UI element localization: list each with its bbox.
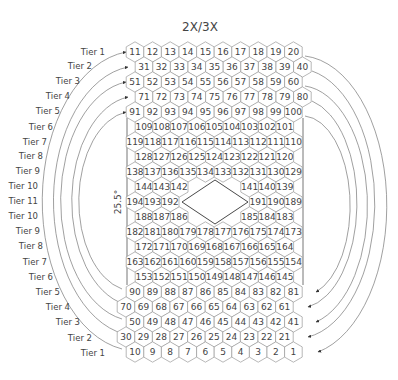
tier-label: Tier 10: [7, 211, 38, 221]
angle-label: 25.5°: [113, 190, 123, 215]
seat-number: 120: [276, 152, 293, 162]
seat-number: 117: [162, 137, 179, 147]
seat-number: 189: [285, 197, 302, 207]
seat-map-diagram: 2X/3X 1112131415161718192031323334353637…: [0, 0, 398, 380]
seat-number: 68: [155, 302, 167, 312]
seat-number: 143: [153, 182, 170, 192]
seat-number: 103: [241, 122, 258, 132]
seat-number: 131: [250, 167, 267, 177]
seat-number: 133: [214, 167, 231, 177]
tier-label: Tier 1: [80, 47, 105, 57]
seat-number: 92: [147, 107, 158, 117]
seat-number: 39: [279, 62, 291, 72]
seat-number: 179: [179, 227, 196, 237]
seat-number: 7: [185, 347, 191, 357]
seat-number: 162: [144, 257, 161, 267]
seat-number: 18: [252, 47, 264, 57]
seat-number: 70: [120, 302, 132, 312]
seat-number: 93: [164, 107, 175, 117]
seat-number: 17: [235, 47, 246, 57]
seat-number: 177: [214, 227, 231, 237]
seat-number: 76: [226, 92, 238, 102]
seat-number: 31: [138, 62, 149, 72]
seat-number: 194: [126, 197, 143, 207]
seat-number: 161: [162, 257, 179, 267]
seat-number: 23: [243, 332, 254, 342]
seat-number: 86: [200, 287, 212, 297]
tier-label: Tier 6: [28, 272, 53, 282]
seat-number: 65: [208, 302, 219, 312]
seat-number: 29: [138, 332, 150, 342]
seat-number: 36: [226, 62, 238, 72]
seat-number: 127: [153, 152, 170, 162]
seat-number: 135: [179, 167, 196, 177]
tier-label: Tier 11: [7, 196, 38, 206]
tier-label: Tier 2: [67, 333, 92, 343]
seat-number: 148: [223, 272, 240, 282]
seat-number: 114: [214, 137, 231, 147]
seat-number: 98: [252, 107, 264, 117]
seat-number: 24: [226, 332, 238, 342]
seat-number: 147: [241, 272, 258, 282]
seat-number: 8: [167, 347, 173, 357]
seat-number: 149: [206, 272, 223, 282]
seat-number: 79: [279, 92, 291, 102]
seat-number: 15: [200, 47, 211, 57]
seat-number: 112: [250, 137, 267, 147]
seat-number: 139: [276, 182, 293, 192]
seat-number: 37: [244, 62, 255, 72]
seat-number: 72: [156, 92, 167, 102]
seat-number: 9: [150, 347, 156, 357]
tier-arrow-right: [305, 116, 350, 292]
seat-number: 46: [200, 317, 212, 327]
seat-number: 1: [291, 347, 297, 357]
seat-number: 43: [252, 317, 263, 327]
seat-number: 78: [261, 92, 273, 102]
seat-number: 85: [217, 287, 228, 297]
seat-number: 53: [164, 77, 175, 87]
seat-number: 141: [241, 182, 258, 192]
seat-number: 158: [214, 257, 231, 267]
seat-number: 150: [188, 272, 205, 282]
seat-number: 57: [235, 77, 246, 87]
seat-number: 22: [261, 332, 272, 342]
seat-number: 173: [285, 227, 302, 237]
seat-number: 77: [244, 92, 255, 102]
seat-number: 33: [173, 62, 184, 72]
seat-number: 152: [153, 272, 170, 282]
seat-number: 41: [288, 317, 299, 327]
tier-label: Tier 8: [18, 151, 43, 161]
seat-number: 19: [270, 47, 282, 57]
seat-number: 97: [235, 107, 246, 117]
seat-number: 187: [153, 212, 170, 222]
seat-number: 60: [288, 77, 300, 87]
seat-number: 16: [217, 47, 229, 57]
seat-number: 64: [226, 302, 238, 312]
seat-number: 49: [147, 317, 159, 327]
seat-number: 137: [144, 167, 161, 177]
seat-number: 80: [297, 92, 309, 102]
seat-number: 115: [197, 137, 214, 147]
seat-number: 184: [259, 212, 276, 222]
seat-number: 54: [182, 77, 194, 87]
seat-number: 74: [191, 92, 203, 102]
seat-number: 111: [267, 137, 284, 147]
tier-label: Tier 3: [55, 76, 80, 86]
seat-number: 180: [162, 227, 179, 237]
seat-number: 91: [129, 107, 140, 117]
seat-number: 44: [235, 317, 247, 327]
seat-number: 26: [191, 332, 203, 342]
tier-label: Tier 9: [15, 166, 40, 176]
seat-number: 136: [162, 167, 179, 177]
seat-number: 94: [182, 107, 194, 117]
seat-number: 83: [252, 287, 263, 297]
tier-label: Tier 7: [22, 257, 47, 267]
center-diamond: [182, 180, 248, 224]
seat-number: 3: [255, 347, 261, 357]
seat-number: 138: [126, 167, 143, 177]
seat-number: 69: [138, 302, 150, 312]
seat-number: 27: [173, 332, 184, 342]
seat-number: 163: [126, 257, 143, 267]
tier-label: Tier 3: [55, 317, 80, 327]
seat-number: 34: [191, 62, 203, 72]
